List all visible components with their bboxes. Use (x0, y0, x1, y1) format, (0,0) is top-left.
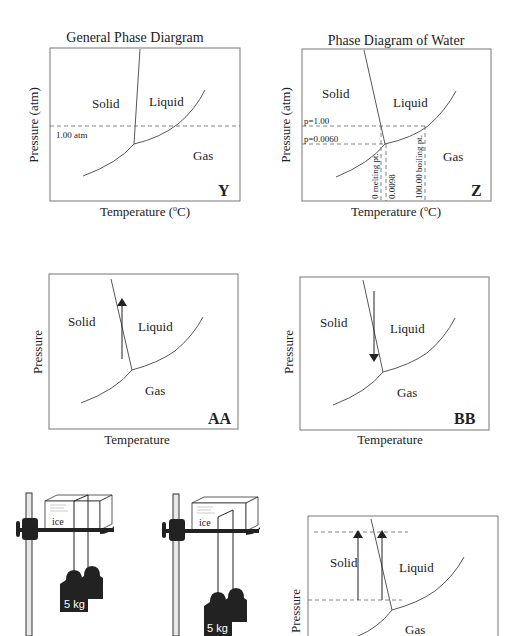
diagram-tag: Y (218, 182, 230, 199)
stand-rod (26, 493, 32, 636)
diagram-bb-frame (300, 277, 489, 430)
diagram-aa-frame (49, 274, 238, 429)
diagram-bb-ylabel: Pressure (281, 330, 296, 374)
diagram-bb-xlabel: Temperature (357, 432, 423, 447)
diagram-tag: Z (471, 182, 482, 199)
region-gas: Gas (405, 622, 425, 636)
temp-label-triple: 0.0098 (387, 174, 397, 199)
diagram-z: Phase Diagram of Water Pressure (atm) Te… (278, 33, 491, 219)
region-liquid: Liquid (149, 94, 184, 109)
ice-apparatus-1: ice 5 kg (16, 493, 114, 636)
temp-label-boiling: 100.00 boiling pt. (414, 135, 424, 199)
solid-liquid-line (364, 50, 385, 144)
diagram-y-ylabel: Pressure (atm) (26, 87, 41, 162)
clamp-knob (16, 521, 20, 537)
region-solid: Solid (68, 314, 96, 329)
ice-label: ice (199, 517, 211, 528)
region-liquid: Liquid (390, 321, 425, 336)
ice-block-side (100, 495, 112, 530)
diagram-y-title: General Phase Diargram (66, 30, 203, 45)
diagram-y-xlabel: Temperature (oC) (100, 204, 190, 219)
diagram-z-xlabel: Temperature (oC) (351, 204, 441, 219)
ice-apparatus-2: ice 5 kg (162, 494, 260, 636)
region-solid: Solid (92, 96, 120, 111)
weight-label: 5 kg (207, 622, 228, 634)
clamp-knob (162, 522, 166, 538)
solid-gas-curve (333, 372, 383, 405)
diagram-aa-ylabel: Pressure (30, 330, 45, 374)
pressure-label-1atm: p=1.00 (304, 116, 330, 126)
diagram-bottom-right: Pressure Solid Liquid Gas (288, 516, 498, 636)
region-liquid: Liquid (138, 319, 173, 334)
region-gas: Gas (145, 383, 165, 398)
weight-label: 5 kg (64, 598, 85, 610)
figure-canvas: General Phase Diargram Pressure (atm) Te… (0, 0, 509, 636)
solid-gas-curve (83, 144, 134, 176)
diagram-tag: AA (208, 410, 232, 427)
diagram-bottom-right-ylabel: Pressure (288, 589, 303, 633)
solid-gas-curve (81, 370, 132, 403)
diagram-z-ylabel: Pressure (atm) (278, 87, 293, 162)
pressure-label-triple: p=0.0060 (304, 134, 339, 144)
diagram-aa: Pressure Temperature Solid Liquid Gas AA (30, 274, 238, 447)
ice-label: ice (52, 516, 64, 527)
region-solid: Solid (320, 315, 348, 330)
reference-line-label: 1.00 atm (56, 130, 88, 140)
diagram-y: General Phase Diargram Pressure (atm) Te… (26, 30, 240, 219)
region-solid: Solid (322, 86, 350, 101)
region-gas: Gas (397, 385, 417, 400)
stand-rod (173, 494, 179, 636)
diagram-aa-xlabel: Temperature (104, 432, 170, 447)
region-gas: Gas (193, 148, 213, 163)
diagram-bb: Pressure Temperature Solid Liquid Gas BB (281, 277, 489, 447)
ice-block-side (246, 497, 258, 531)
solid-liquid-line (363, 280, 383, 372)
temp-label-melting: 0 melting pt. (370, 153, 380, 199)
diagram-tag: BB (454, 410, 476, 427)
region-gas: Gas (443, 149, 463, 164)
diagram-z-title: Phase Diagram of Water (328, 33, 465, 48)
region-solid: Solid (330, 555, 358, 570)
diagram-bottom-right-frame (308, 516, 498, 636)
solid-liquid-line (134, 49, 140, 144)
clamp-boss (22, 518, 38, 540)
region-liquid: Liquid (393, 95, 428, 110)
solid-gas-curve (358, 610, 392, 636)
region-liquid: Liquid (399, 560, 434, 575)
diagram-y-frame (50, 48, 240, 201)
clamp-boss (169, 519, 185, 541)
